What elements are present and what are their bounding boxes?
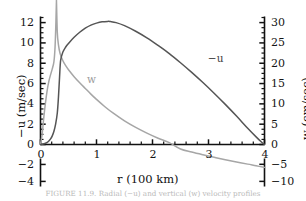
series-line-u — [41, 21, 265, 144]
left-tick-label: 6 — [27, 78, 34, 89]
figure-container: 024681012 −2−4 051015202530 −5−10 01234 … — [0, 0, 306, 201]
right-tick-label: 10 — [271, 98, 285, 109]
left-tick-label: 10 — [20, 37, 34, 48]
x-tick-label: 3 — [206, 149, 213, 160]
series-annotation-u: −u — [208, 52, 224, 64]
right-tick-label: 15 — [271, 78, 285, 89]
left-axis-title: −u (m/sec) — [14, 74, 28, 138]
x-tick-label: 1 — [94, 149, 101, 160]
chart-canvas — [0, 0, 306, 201]
left-tick-label: 8 — [27, 58, 34, 69]
x-tick-label: 2 — [150, 149, 157, 160]
x-axis-ticks — [41, 139, 265, 144]
left-tick-label: 0 — [27, 139, 34, 150]
x-axis-title: r (100 km) — [117, 172, 179, 186]
left-tick-label: 12 — [20, 17, 34, 28]
right-axis-title: w (cm/sec) — [299, 77, 306, 140]
x-tick-label: 0 — [38, 149, 45, 160]
right-tick-label: 30 — [271, 17, 285, 28]
left-tick-label: 4 — [27, 98, 34, 109]
right-broken-tick-label: −10 — [271, 176, 294, 187]
x-tick-label: 4 — [262, 149, 269, 160]
right-tick-label: 25 — [271, 37, 285, 48]
left-broken-tick-label: −2 — [18, 159, 34, 170]
right-broken-tick-label: −5 — [271, 159, 287, 170]
left-broken-tick-label: −4 — [18, 176, 34, 187]
right-tick-label: 0 — [271, 139, 278, 150]
series-annotation-w: w — [87, 73, 96, 85]
right-tick-label: 20 — [271, 58, 285, 69]
left-tick-label: 2 — [27, 119, 34, 130]
right-tick-label: 5 — [271, 119, 278, 130]
figure-caption: FIGURE 11.9. Radial (−u) and vertical (w… — [0, 190, 306, 198]
